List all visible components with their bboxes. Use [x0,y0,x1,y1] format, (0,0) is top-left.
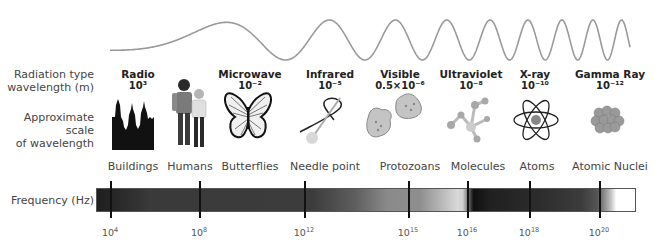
band-name: X-ray [510,68,560,80]
object-label-molecules: Molecules [448,160,508,173]
humans-icon [170,77,212,150]
object-label-atoms: Atoms [512,160,562,173]
band-visible: Visible 0.5×10⁻⁶ [370,68,430,92]
band-wavelength: 10⁻¹⁰ [510,80,560,92]
atom-icon [512,96,560,144]
band-name: Radio [113,68,163,80]
band-name: Gamma Ray [575,68,645,80]
needle-icon [298,90,348,145]
band-ultraviolet: Ultraviolet 10⁻⁸ [436,68,506,92]
tick-mark [529,181,531,218]
band-wavelength: 10³ [113,80,163,92]
band-name: Microwave [215,68,285,80]
tick-label: 1012 [289,226,319,238]
band-xray: X-ray 10⁻¹⁰ [510,68,560,92]
frequency-label: Frequency (Hz) [0,194,94,207]
object-label-humans: Humans [165,160,215,173]
object-label-atomic-nuclei: Atomic Nuclei [570,160,650,173]
band-name: Infrared [300,68,360,80]
band-name: Ultraviolet [436,68,506,80]
tick-label: 108 [184,226,214,238]
tick-label: 104 [95,226,125,238]
object-label-needle-point: Needle point [290,160,360,173]
molecule-icon [445,95,495,145]
radiation-type-label: Radiation type wavelength (m) [0,68,94,94]
tick-label: 1015 [393,226,423,238]
band-radio: Radio 10³ [113,68,163,92]
band-infrared: Infrared 10⁻⁵ [300,68,360,92]
tick-mark [199,181,201,218]
scale-label: Approximate scale of wavelength [0,111,94,150]
tick-mark [304,181,306,218]
tick-label: 1016 [452,226,482,238]
band-name: Visible [370,68,430,80]
radiation-type-text: Radiation type [0,68,94,81]
frequency-gradient-bar [96,188,636,212]
band-gamma-ray: Gamma Ray 10⁻¹² [575,68,645,92]
butterfly-icon [223,89,273,147]
protozoan-icon [362,90,428,142]
tick-mark [599,181,601,218]
object-label-buildings: Buildings [103,160,163,173]
object-label-protozoans: Protozoans [375,160,445,173]
wavelength-unit-text: wavelength (m) [0,81,94,94]
tick-mark [110,181,112,218]
tick-mark [467,181,469,218]
nucleus-icon [590,103,624,135]
object-label-butterflies: Butterflies [220,160,280,173]
tick-mark [408,181,410,218]
buildings-icon [112,95,154,150]
band-wavelength: 10⁻⁸ [436,80,506,92]
scale-line2: of wavelength [0,137,94,150]
wave-graphic [0,0,655,65]
tick-label: 1018 [514,226,544,238]
scale-line1: Approximate scale [0,111,94,137]
tick-label: 1020 [584,226,614,238]
band-wavelength: 10⁻¹² [575,80,645,92]
